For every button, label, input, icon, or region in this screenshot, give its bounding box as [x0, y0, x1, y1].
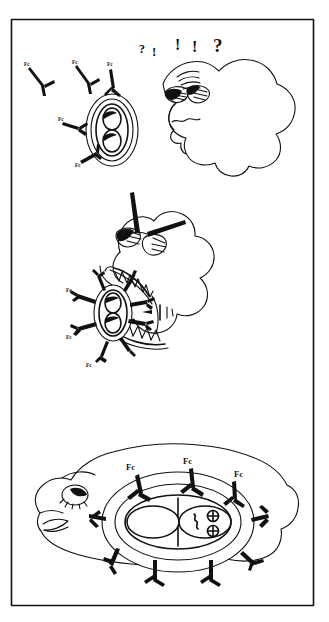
bound-antibody-label-3-0: Fc — [126, 462, 135, 472]
bound-antibody-label-3-2: Fc — [234, 469, 243, 479]
digest-granule-b-3 — [208, 526, 219, 537]
bound-antibody-label-2-1: Fc — [66, 334, 72, 340]
thought-mark-3: ! — [192, 38, 197, 55]
bound-antibody-label-2-0: Fc — [66, 287, 72, 293]
cartoon-illustration: ? ! ! ! ? Fc Fc — [0, 0, 329, 622]
thought-mark-1: ! — [152, 44, 156, 59]
antibody-label-1-1: Fc — [72, 59, 78, 65]
microbe-inner-body-a-2 — [105, 293, 121, 313]
antibody-label-1-0: Fc — [24, 61, 30, 67]
bound-antibody-label-3-1: Fc — [183, 456, 192, 466]
bound-antibody-label-2-3: Fc — [86, 362, 92, 368]
microbe-inner-body-b-3 — [179, 506, 231, 538]
digest-granule-a-3 — [208, 511, 219, 522]
thought-mark-0: ? — [139, 42, 145, 56]
antibody-label-1-3: Fc — [58, 116, 64, 122]
figure-root: ? ! ! ! ? Fc Fc — [0, 0, 329, 622]
thought-mark-2: ! — [175, 36, 180, 53]
thought-mark-4: ? — [213, 35, 223, 56]
antibody-label-1-2: Fc — [107, 61, 113, 67]
microbe-inner-body-b-2 — [105, 313, 121, 333]
microbe-inner-body-a-3 — [127, 506, 179, 538]
antibody-label-1-4: Fc — [75, 162, 81, 168]
